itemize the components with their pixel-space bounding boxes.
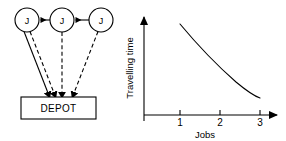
x-tick-label-3: 3 (257, 117, 263, 128)
figure-root: J J J DEPOT (0, 0, 286, 141)
y-axis-title: Travelling time (124, 37, 135, 98)
x-axis-title: Jobs (195, 129, 215, 140)
depot-link-job3-dashed (74, 32, 98, 94)
job-node-2[interactable]: J (50, 8, 74, 32)
travelling-time-curve (180, 24, 260, 98)
x-tick-label-1: 1 (177, 117, 183, 128)
depot-link-job1-solid (24, 32, 48, 94)
job-node-3[interactable]: J (89, 8, 113, 32)
job-node-1-label: J (25, 16, 30, 26)
job-node-1[interactable]: J (15, 8, 39, 32)
depot-node[interactable]: DEPOT (21, 97, 96, 119)
depot-link-job1-dashed (30, 32, 54, 94)
jobs-depot-diagram: J J J DEPOT (15, 8, 113, 119)
x-tick-label-2: 2 (217, 117, 223, 128)
job-node-2-label: J (60, 16, 65, 26)
figure-svg: J J J DEPOT (0, 0, 286, 141)
travelling-time-chart: 1 2 3 Jobs Travelling time (124, 17, 277, 140)
depot-label: DEPOT (41, 103, 77, 114)
job-node-3-label: J (99, 16, 104, 26)
